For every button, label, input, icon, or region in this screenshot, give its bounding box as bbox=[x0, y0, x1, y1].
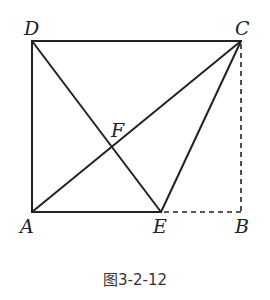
label-f: F bbox=[110, 119, 125, 141]
segment-ce bbox=[161, 41, 241, 212]
segment-de bbox=[32, 41, 161, 212]
label-d: D bbox=[23, 17, 39, 39]
segment-ac bbox=[32, 41, 241, 212]
label-b: B bbox=[234, 215, 249, 237]
label-e: E bbox=[152, 215, 167, 237]
label-a: A bbox=[18, 215, 34, 237]
label-c: C bbox=[235, 17, 250, 39]
geometry-diagram: D C F A E B bbox=[0, 0, 270, 300]
figure-caption: 图3-2-12 bbox=[0, 268, 270, 289]
